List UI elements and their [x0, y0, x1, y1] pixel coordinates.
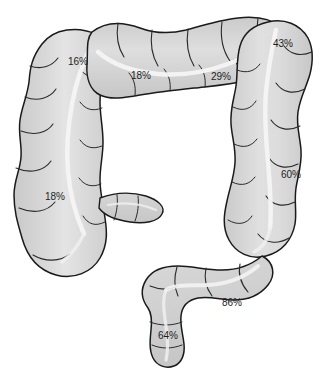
colon-diagram-figure: 16% 18% 29% 43% 18% 60% 86% 64%	[0, 0, 327, 376]
sigmoid-rectum-segment	[142, 256, 272, 367]
terminal-ileum-segment	[99, 193, 163, 223]
descending-colon-segment	[224, 21, 312, 257]
label-rectum: 64%	[158, 330, 178, 341]
label-ascending-colon: 18%	[45, 191, 65, 202]
label-sigmoid-colon: 86%	[222, 297, 242, 308]
label-transverse-right: 29%	[211, 71, 231, 82]
label-descending-colon: 60%	[281, 169, 301, 180]
label-splenic-flexure: 43%	[273, 38, 293, 49]
label-hepatic-flexure-left: 16%	[68, 56, 88, 67]
colon-illustration	[0, 0, 327, 376]
label-transverse-left: 18%	[131, 70, 151, 81]
